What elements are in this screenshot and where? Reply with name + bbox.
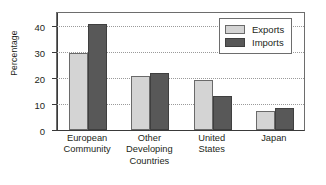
legend-label-exports: Exports [252,24,284,35]
legend-label-imports: Imports [252,37,284,48]
legend-swatch-imports [225,38,245,47]
x-axis-label: Japan [231,133,317,144]
bar-group [57,13,119,130]
legend-item-imports: Imports [225,36,284,49]
bar-imports-1 [150,73,169,130]
bar-imports-2 [213,96,232,130]
bar-exports-0 [69,53,88,130]
bar-exports-2 [194,80,213,130]
x-axis-labels: EuropeanCommunityOtherDevelopingCountrie… [56,133,305,183]
y-axis-tick-label: 30 [34,47,45,58]
bar-imports-3 [275,108,294,130]
bar-imports-0 [88,24,107,130]
chart-legend: Exports Imports [219,18,292,54]
bar-group [119,13,181,130]
y-axis-tick: 0 [52,130,57,131]
bar-chart: Percentage 010203040 EuropeanCommunityOt… [0,0,326,185]
bar-exports-3 [256,111,275,130]
y-axis-tick-label: 20 [34,74,45,85]
legend-item-exports: Exports [225,23,284,36]
legend-swatch-exports [225,25,245,34]
y-axis-title: Percentage [9,3,19,103]
y-axis-tick-label: 10 [34,100,45,111]
y-axis-tick-label: 40 [34,22,45,33]
bar-exports-1 [131,76,150,130]
